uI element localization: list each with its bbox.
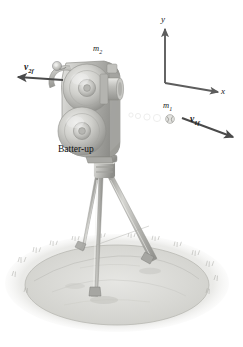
label-m1: m1: [163, 101, 172, 112]
axis-label-x: x: [221, 87, 225, 96]
ball-m1: [166, 115, 175, 124]
label-v2f: v2f: [24, 63, 34, 74]
camera-lens: [100, 74, 124, 104]
figure-canvas: m2 m1 v2f v1f y x Batter-up: [0, 0, 243, 347]
coordinate-axes: [165, 29, 218, 92]
caption-batter-up: Batter-up: [58, 145, 94, 155]
ball-motion-trail: [129, 113, 161, 122]
illustration-svg: [0, 0, 243, 347]
vector-v2f-arrow: [18, 77, 63, 80]
pitchers-mound: [25, 245, 209, 325]
label-m2: m2: [93, 44, 102, 55]
label-v1f: v1f: [190, 115, 200, 126]
axis-label-y: y: [161, 15, 165, 24]
